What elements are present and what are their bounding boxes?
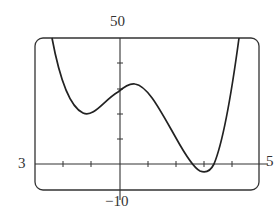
y-max-label: 50 [110, 14, 125, 29]
graph [0, 0, 279, 212]
function-curve [52, 38, 239, 172]
y-min-label: −10 [105, 194, 128, 209]
x-max-label: 5 [266, 154, 274, 169]
x-min-label: 3 [18, 156, 26, 171]
viewing-window-frame [35, 38, 259, 190]
